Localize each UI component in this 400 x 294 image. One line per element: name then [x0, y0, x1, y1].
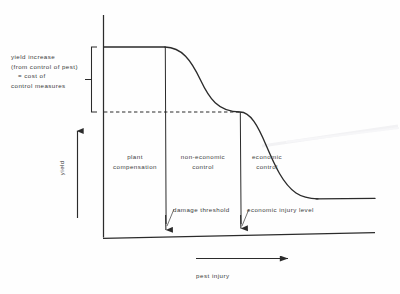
zone-label-economic-control: economic control	[243, 152, 291, 171]
zone-label-plant-compensation: plant compensation	[108, 152, 162, 171]
economic-injury-level-line	[240, 112, 241, 224]
y-axis-title: yield	[57, 153, 67, 183]
damage-threshold-label: damage threshold	[173, 205, 230, 215]
yield-pest-injury-diagram	[0, 0, 400, 294]
zone-label-plant-compensation-line2: compensation	[108, 162, 162, 172]
yield-increase-label-line1: yield increase	[11, 52, 78, 62]
yield-increase-label-line3: = cost of	[11, 71, 78, 81]
zone-label-non-economic-control-line1: non-economic	[170, 152, 236, 162]
economic-injury-level-label: economic injury level	[247, 205, 314, 215]
yield-increase-label: yield increase (from control of pest) = …	[11, 52, 78, 90]
yield-increase-bracket	[92, 47, 98, 112]
zone-label-economic-control-line2: control	[243, 162, 291, 172]
zone-label-non-economic-control-line2: control	[170, 162, 236, 172]
x-axis	[103, 233, 375, 239]
x-axis-title: pest injury	[196, 271, 230, 281]
curve-descent-segment	[165, 47, 318, 199]
zone-label-non-economic-control: non-economic control	[170, 152, 236, 171]
damage-threshold-line	[165, 47, 166, 224]
zone-label-plant-compensation-line1: plant	[108, 152, 162, 162]
yield-increase-label-line2: (from control of pest)	[11, 62, 78, 72]
zone-label-economic-control-line1: economic	[243, 152, 291, 162]
scan-artifact-streak-2	[286, 128, 399, 142]
yield-increase-label-line4: control measures	[11, 81, 78, 91]
